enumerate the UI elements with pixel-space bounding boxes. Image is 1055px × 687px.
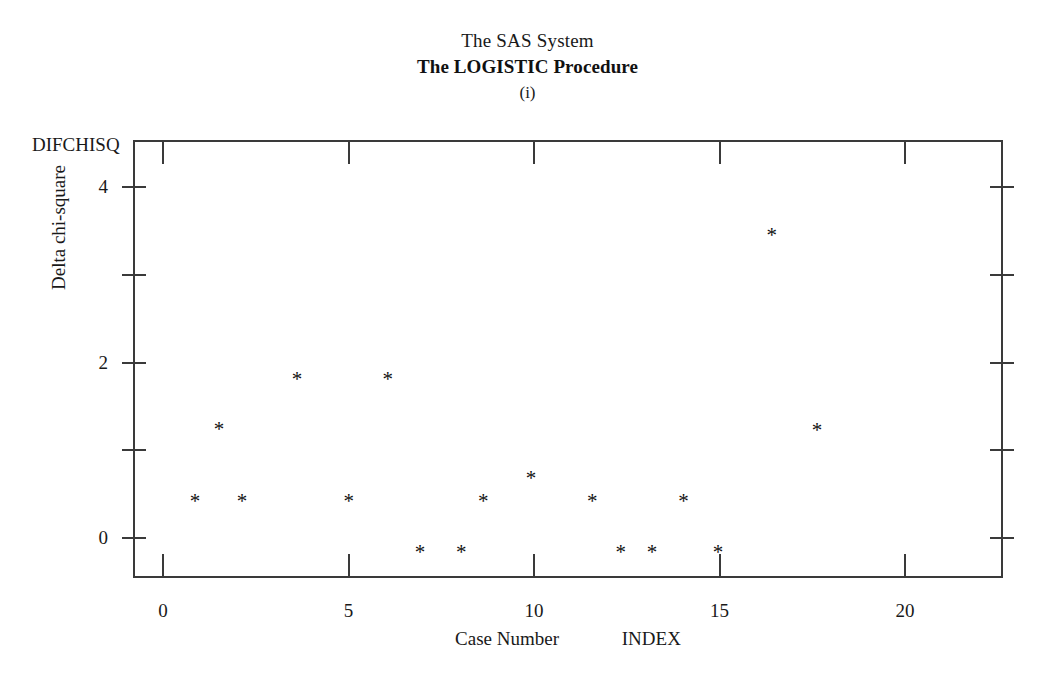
scatter-point: *: [289, 368, 305, 384]
scatter-point: *: [475, 490, 491, 506]
scatter-point: *: [523, 467, 539, 483]
x-tick-top: [348, 140, 350, 164]
x-tick-bottom: [348, 554, 350, 578]
y-tick-label: 2: [48, 353, 108, 372]
frame-left-line: [133, 140, 135, 578]
x-tick-top: [904, 140, 906, 164]
scatter-point: *: [234, 490, 250, 506]
title-subcaption: (i): [0, 80, 1055, 105]
scatter-point: *: [644, 541, 660, 557]
y-axis-variable-label: DIFCHISQ: [32, 134, 120, 156]
plot-frame: *****************: [133, 140, 1003, 578]
y-tick-left: [122, 274, 146, 276]
plot-title-block: The SAS System The LOGISTIC Procedure (i…: [0, 28, 1055, 105]
x-tick-label: 15: [690, 601, 750, 620]
x-tick-label: 20: [875, 601, 935, 620]
x-tick-label: 10: [504, 601, 564, 620]
y-tick-right: [990, 362, 1014, 364]
y-tick-label: 4: [48, 177, 108, 196]
x-tick-bottom: [904, 554, 906, 578]
y-tick-left: [122, 362, 146, 364]
scatter-point: *: [613, 541, 629, 557]
scatter-point: *: [809, 419, 825, 435]
y-tick-right: [990, 537, 1014, 539]
frame-right-line: [1001, 140, 1003, 578]
x-tick-top: [533, 140, 535, 164]
frame-top-line: [133, 140, 1003, 142]
scatter-point: *: [341, 490, 357, 506]
scatter-point: *: [380, 368, 396, 384]
scatter-point: *: [710, 541, 726, 557]
x-tick-label: 0: [133, 601, 193, 620]
sas-output-page: The SAS System The LOGISTIC Procedure (i…: [0, 0, 1055, 687]
x-axis-variable: INDEX: [622, 628, 681, 649]
y-tick-right: [990, 274, 1014, 276]
y-tick-right: [990, 449, 1014, 451]
x-tick-top: [719, 140, 721, 164]
y-tick-left: [122, 186, 146, 188]
scatter-point: *: [453, 541, 469, 557]
x-tick-label: 5: [319, 601, 379, 620]
y-tick-right: [990, 186, 1014, 188]
scatter-point: *: [584, 490, 600, 506]
title-sas-system: The SAS System: [0, 28, 1055, 54]
frame-bottom-line: [133, 576, 1003, 578]
scatter-point: *: [211, 418, 227, 434]
scatter-point: *: [764, 224, 780, 240]
y-tick-label: 0: [48, 528, 108, 547]
x-axis-title: Case Number: [455, 628, 559, 649]
y-tick-left: [122, 449, 146, 451]
title-logistic-procedure: The LOGISTIC Procedure: [0, 54, 1055, 80]
scatter-point: *: [187, 490, 203, 506]
x-tick-bottom: [533, 554, 535, 578]
scatter-point: *: [676, 490, 692, 506]
x-tick-top: [162, 140, 164, 164]
x-axis-title-row: Case Number INDEX: [133, 628, 1003, 650]
x-tick-bottom: [162, 554, 164, 578]
scatter-point: *: [412, 541, 428, 557]
y-tick-left: [122, 537, 146, 539]
